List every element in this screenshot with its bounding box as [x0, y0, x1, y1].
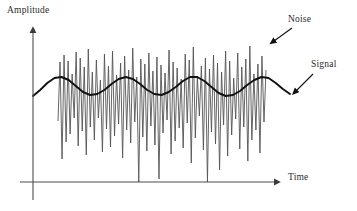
noise-annotation-arrow	[274, 28, 292, 41]
signal-annotation-label: Signal	[311, 59, 336, 69]
noise-annotation-label: Noise	[288, 14, 311, 24]
noise-trace	[58, 46, 266, 182]
signal-annotation-arrow	[296, 74, 313, 91]
x-axis-label: Time	[288, 172, 309, 182]
signal-noise-figure: Amplitude Time Noise Signal	[0, 0, 357, 211]
y-axis-label: Amplitude	[7, 5, 49, 15]
